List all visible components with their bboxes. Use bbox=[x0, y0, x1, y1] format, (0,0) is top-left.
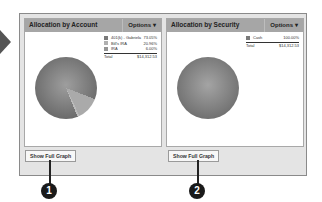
legend-swatch bbox=[104, 41, 108, 45]
callout-line bbox=[49, 160, 51, 184]
legend-item: 401(k) - Gabriela 73.05% bbox=[104, 35, 157, 41]
allocation-window: Allocation by Account Options ▾ 401(k) -… bbox=[19, 13, 307, 176]
legend-item: IRA 6.00% bbox=[104, 46, 157, 52]
legend-item: Bill's IRA 20.96% bbox=[104, 41, 157, 47]
legend-item: Cash 100.00% bbox=[246, 35, 299, 41]
options-dropdown[interactable]: Options ▾ bbox=[264, 19, 303, 32]
pie-chart[interactable] bbox=[35, 57, 97, 119]
pointer-arrow-icon bbox=[0, 30, 11, 54]
options-dropdown[interactable]: Options ▾ bbox=[122, 19, 161, 32]
callout-line bbox=[197, 160, 199, 184]
show-full-graph-button[interactable]: Show Full Graph bbox=[168, 150, 219, 162]
chevron-down-icon: ▾ bbox=[153, 22, 156, 28]
chevron-down-icon: ▾ bbox=[295, 22, 298, 28]
legend-swatch bbox=[104, 36, 108, 40]
pie-chart[interactable] bbox=[177, 57, 239, 119]
legend-total: Total $14,312.53 bbox=[104, 53, 157, 59]
callout-1: 1 bbox=[41, 183, 57, 199]
panel-header: Allocation by Security Options ▾ bbox=[167, 19, 303, 32]
legend-swatch bbox=[104, 47, 108, 51]
panel-title: Allocation by Security bbox=[171, 21, 239, 28]
legend-swatch bbox=[246, 36, 250, 40]
legend: 401(k) - Gabriela 73.05% Bill's IRA 20.9… bbox=[104, 35, 157, 59]
callout-2: 2 bbox=[189, 183, 205, 199]
show-full-graph-button[interactable]: Show Full Graph bbox=[25, 150, 76, 162]
panel-title: Allocation by Account bbox=[29, 21, 97, 28]
allocation-by-account-panel: Allocation by Account Options ▾ 401(k) -… bbox=[24, 18, 162, 147]
panel-header: Allocation by Account Options ▾ bbox=[25, 19, 161, 32]
legend: Cash 100.00% Total $14,312.53 bbox=[246, 35, 299, 48]
legend-total: Total $14,312.53 bbox=[246, 42, 299, 48]
allocation-by-security-panel: Allocation by Security Options ▾ Cash 10… bbox=[166, 18, 304, 147]
